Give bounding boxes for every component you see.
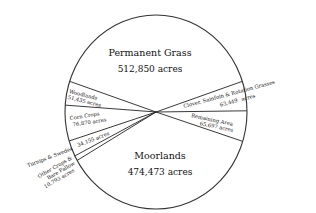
slice-label-moorlands: Moorlands: [134, 150, 186, 161]
slice-value-moorlands: 474,473 acres: [128, 167, 193, 177]
pie-chart: Permanent Grass 512,850 acres Moorlands …: [0, 0, 316, 213]
slice-label-permanent-grass: Permanent Grass: [108, 47, 191, 58]
slice-value-permanent-grass: 512,850 acres: [118, 64, 183, 74]
